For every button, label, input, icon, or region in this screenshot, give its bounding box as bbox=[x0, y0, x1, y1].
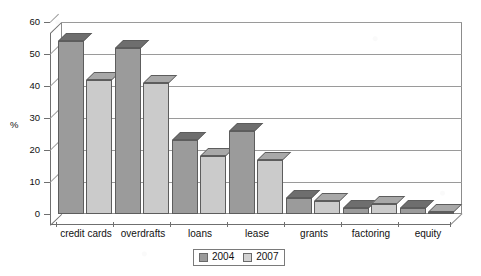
x-axis-tick bbox=[170, 222, 171, 227]
x-axis-labels: credit cards overdrafts loans lease gran… bbox=[50, 228, 462, 244]
bar-top-face bbox=[143, 75, 177, 83]
bar-2004[interactable] bbox=[400, 208, 426, 214]
bar-2004[interactable] bbox=[229, 131, 255, 214]
bar-front-face bbox=[428, 212, 454, 214]
x-axis-label-lease: lease bbox=[245, 228, 269, 240]
legend-item-2004[interactable]: 2004 bbox=[199, 251, 234, 263]
bar-front-face bbox=[314, 201, 340, 214]
x-axis-tick bbox=[227, 222, 228, 227]
legend-swatch-icon bbox=[243, 253, 252, 262]
x-axis-tick bbox=[284, 222, 285, 227]
bar-chart-figure: 60 50 40 30 20 10 0 % bbox=[0, 0, 481, 276]
x-axis-tick bbox=[56, 222, 57, 227]
bar-2007[interactable] bbox=[86, 80, 112, 214]
bar-front-face bbox=[229, 131, 255, 214]
x-axis-tick bbox=[450, 222, 451, 227]
legend-item-2007[interactable]: 2007 bbox=[243, 251, 278, 263]
y-axis: 60 50 40 30 20 10 0 % bbox=[0, 0, 50, 226]
x-axis-label-overdrafts: overdrafts bbox=[121, 228, 165, 240]
y-tick-label: 40 bbox=[29, 81, 40, 91]
y-axis-title: % bbox=[10, 119, 18, 130]
bar-top-face bbox=[286, 190, 320, 198]
bar-top-face bbox=[229, 123, 263, 131]
bar-front-face bbox=[86, 80, 112, 214]
bar-series-container bbox=[50, 22, 462, 225]
bar-front-face bbox=[58, 41, 84, 214]
bar-top-face bbox=[428, 204, 462, 212]
y-tick-label: 60 bbox=[29, 17, 40, 27]
y-tick-label: 20 bbox=[29, 145, 40, 155]
chart-legend: 2004 2007 bbox=[193, 249, 285, 266]
bar-front-face bbox=[172, 140, 198, 214]
bar-front-face bbox=[286, 198, 312, 214]
x-axis-label-loans: loans bbox=[188, 228, 212, 240]
bar-front-face bbox=[257, 160, 283, 214]
bar-2004[interactable] bbox=[115, 48, 141, 214]
bar-top-face bbox=[172, 132, 206, 140]
x-axis-label-grants: grants bbox=[300, 228, 328, 240]
bar-front-face bbox=[400, 208, 426, 214]
y-tick-label: 30 bbox=[29, 113, 40, 123]
x-axis-label-equity: equity bbox=[415, 228, 442, 240]
bar-2007[interactable] bbox=[200, 156, 226, 214]
bar-2004[interactable] bbox=[58, 41, 84, 214]
bar-2007[interactable] bbox=[428, 212, 454, 214]
y-tick-label: 10 bbox=[29, 177, 40, 187]
bar-front-face bbox=[371, 204, 397, 214]
bar-2004[interactable] bbox=[286, 198, 312, 214]
bar-top-face bbox=[371, 196, 405, 204]
bar-front-face bbox=[143, 83, 169, 214]
bar-2007[interactable] bbox=[371, 204, 397, 214]
bar-2007[interactable] bbox=[314, 201, 340, 214]
x-axis-tick bbox=[398, 222, 399, 227]
bar-top-face bbox=[400, 200, 434, 208]
bar-top-face bbox=[58, 33, 92, 41]
bar-2007[interactable] bbox=[257, 160, 283, 214]
bar-top-face bbox=[257, 152, 291, 160]
y-tick-label: 0 bbox=[35, 209, 40, 219]
x-axis-label-credit-cards: credit cards bbox=[60, 228, 112, 240]
bar-top-face bbox=[115, 40, 149, 48]
bar-top-face bbox=[314, 193, 348, 201]
x-axis-tick bbox=[341, 222, 342, 227]
x-axis-tick bbox=[113, 222, 114, 227]
bar-front-face bbox=[115, 48, 141, 214]
x-axis-label-factoring: factoring bbox=[352, 228, 390, 240]
bar-2004[interactable] bbox=[343, 208, 369, 214]
legend-label-2004: 2004 bbox=[212, 251, 234, 263]
legend-swatch-icon bbox=[199, 253, 208, 262]
y-tick-label: 50 bbox=[29, 49, 40, 59]
bar-front-face bbox=[343, 208, 369, 214]
bar-2004[interactable] bbox=[172, 140, 198, 214]
bar-front-face bbox=[200, 156, 226, 214]
bar-2007[interactable] bbox=[143, 83, 169, 214]
legend-label-2007: 2007 bbox=[256, 251, 278, 263]
